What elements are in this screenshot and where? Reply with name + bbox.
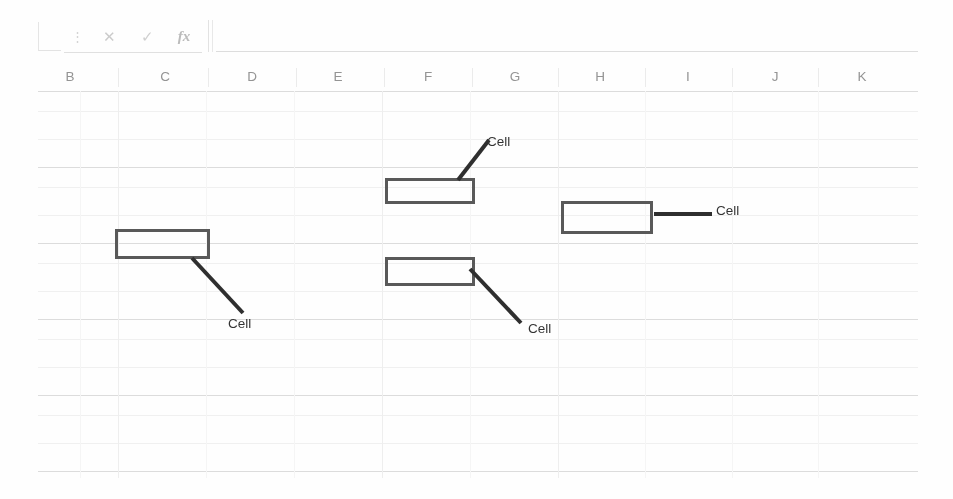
grid-row-line [38, 443, 918, 444]
column-header-divider[interactable] [118, 68, 119, 87]
column-header-h[interactable]: H [570, 64, 630, 90]
grid-row-line [38, 291, 918, 292]
formula-bar-icon-group: ⋮✕✓fx [64, 20, 202, 53]
column-header-c[interactable]: C [135, 64, 195, 90]
grid-row-line [38, 367, 918, 368]
cell-highlight-box[interactable] [561, 201, 653, 234]
grid-column-line [118, 91, 119, 478]
spreadsheet-grid [38, 91, 918, 478]
grid-column-line [818, 91, 819, 478]
scanned-page-surface: ⋮✕✓fx BCDEFGHIJK CellCellCellCell [0, 0, 953, 499]
insert-function-icon[interactable]: fx [166, 29, 202, 44]
column-header-f[interactable]: F [398, 64, 458, 90]
grid-column-line [558, 91, 559, 478]
grid-row-line [38, 415, 918, 416]
grid-column-line [645, 91, 646, 478]
formula-bar: ⋮✕✓fx [38, 20, 918, 54]
grid-column-line [382, 91, 383, 478]
column-header-e[interactable]: E [308, 64, 368, 90]
name-box[interactable] [38, 22, 61, 51]
formula-bar-divider [208, 20, 209, 52]
column-header-row: BCDEFGHIJK [38, 64, 918, 92]
grid-column-line [206, 91, 207, 478]
grid-column-line [294, 91, 295, 478]
cell-highlight-box[interactable] [385, 257, 475, 286]
column-header-k[interactable]: K [832, 64, 892, 90]
column-header-i[interactable]: I [658, 64, 718, 90]
column-header-divider[interactable] [732, 68, 733, 87]
confirm-check-icon[interactable]: ✓ [128, 29, 166, 44]
column-header-j[interactable]: J [745, 64, 805, 90]
cell-annotation-label: Cell [528, 321, 551, 336]
grid-row-line [38, 263, 918, 264]
grid-row-line [38, 167, 918, 168]
cell-annotation-label: Cell [228, 316, 251, 331]
column-header-divider[interactable] [558, 68, 559, 87]
cell-annotation-label: Cell [487, 134, 510, 149]
cancel-x-icon[interactable]: ✕ [90, 29, 128, 44]
column-header-g[interactable]: G [485, 64, 545, 90]
grid-row-line [38, 111, 918, 112]
column-header-divider[interactable] [472, 68, 473, 87]
grid-column-line [732, 91, 733, 478]
column-header-d[interactable]: D [222, 64, 282, 90]
grid-column-line [80, 91, 81, 478]
grid-row-line [38, 339, 918, 340]
formula-bar-divider-secondary [212, 20, 213, 52]
grid-row-line [38, 139, 918, 140]
column-header-divider[interactable] [384, 68, 385, 87]
cell-highlight-box[interactable] [385, 178, 475, 204]
grid-row-line [38, 395, 918, 396]
column-header-divider[interactable] [208, 68, 209, 87]
grid-row-line [38, 319, 918, 320]
grid-row-line [38, 91, 918, 92]
formula-input[interactable] [216, 20, 918, 52]
column-header-b[interactable]: B [40, 64, 100, 90]
column-header-divider[interactable] [296, 68, 297, 87]
column-header-divider[interactable] [818, 68, 819, 87]
grid-row-line [38, 187, 918, 188]
grid-row-line [38, 471, 918, 472]
cell-annotation-label: Cell [716, 203, 739, 218]
cell-highlight-box[interactable] [115, 229, 210, 259]
column-header-divider[interactable] [645, 68, 646, 87]
spreadsheet-annotation-screenshot: ⋮✕✓fx BCDEFGHIJK CellCellCellCell [0, 0, 953, 499]
menu-dots-icon[interactable]: ⋮ [64, 30, 90, 43]
grid-row-line [38, 215, 918, 216]
